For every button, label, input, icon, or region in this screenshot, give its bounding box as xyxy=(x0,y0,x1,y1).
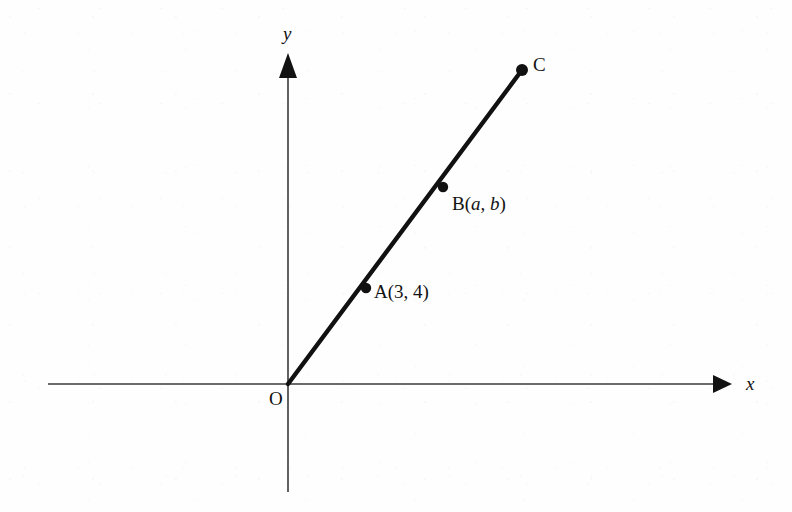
point-a-label-x: 3 xyxy=(394,281,404,302)
point-b-label-y: b xyxy=(490,193,500,214)
y-axis-label: y xyxy=(283,24,291,43)
point-b-label-x: a xyxy=(471,193,481,214)
point-b-label-sep: , xyxy=(481,193,491,214)
point-b-marker xyxy=(438,182,448,192)
point-a-label: A(3, 4) xyxy=(374,282,429,301)
point-a-marker xyxy=(361,283,371,293)
x-axis-arrowhead-icon xyxy=(713,375,732,393)
point-a-label-y: 4 xyxy=(413,281,423,302)
point-c-marker xyxy=(516,64,528,76)
x-axis-label: x xyxy=(746,374,754,393)
point-c-label: C xyxy=(533,55,546,74)
point-b-label-suffix: ) xyxy=(500,193,506,214)
point-a-label-sep: , xyxy=(404,281,414,302)
point-b-label-prefix: B( xyxy=(452,193,471,214)
figure-canvas xyxy=(0,0,792,512)
coordinate-geometry-figure: y x O C B(a, b) A(3, 4) xyxy=(0,0,792,512)
ray-oc-line xyxy=(288,70,522,384)
origin-label: O xyxy=(269,389,283,408)
point-a-label-suffix: ) xyxy=(423,281,429,302)
point-b-label: B(a, b) xyxy=(452,194,506,213)
y-axis-arrowhead-icon xyxy=(279,53,297,78)
point-a-label-prefix: A( xyxy=(374,281,394,302)
